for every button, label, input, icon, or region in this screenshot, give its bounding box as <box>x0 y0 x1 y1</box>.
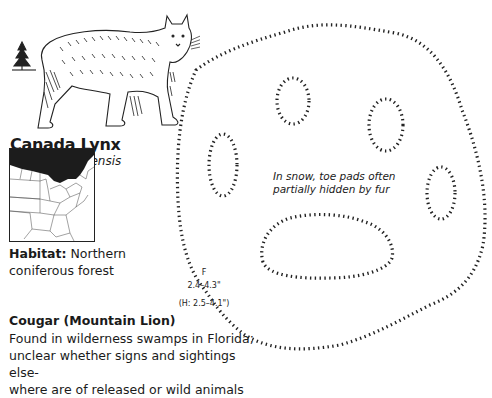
snow-note-line2: partially hidden by fur <box>273 183 396 196</box>
habitat-label: Habitat: <box>9 246 67 261</box>
foot-label: F <box>196 268 212 277</box>
hind-track-size: (H: 2.5–4.1") <box>172 299 236 308</box>
front-track-size: 2.4–4.3" <box>180 281 228 290</box>
related-line1: Found in wilderness swamps in Florida; <box>9 330 259 347</box>
snow-note-line1: In snow, toe pads often <box>273 170 396 183</box>
habitat-line1: Northern <box>71 246 127 261</box>
habitat-text: Habitat: Northern coniferous forest <box>9 245 126 279</box>
range-map <box>9 148 95 242</box>
lynx-illustration <box>10 12 200 137</box>
related-species-text: Found in wilderness swamps in Florida; u… <box>9 330 259 398</box>
related-line3: where are of released or wild animals <box>9 381 259 398</box>
related-species-heading: Cougar (Mountain Lion) <box>9 313 176 328</box>
habitat-line2: coniferous forest <box>9 263 114 278</box>
related-line2: unclear whether signs and sightings else… <box>9 347 259 381</box>
conifer-tree-icon <box>12 42 36 70</box>
snow-note: In snow, toe pads often partially hidden… <box>273 170 396 196</box>
